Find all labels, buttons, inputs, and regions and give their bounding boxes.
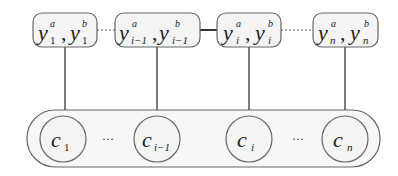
node-ci: c i — [226, 116, 272, 162]
svg-text:b: b — [175, 18, 180, 29]
svg-text:a: a — [331, 18, 336, 29]
svg-text:n: n — [330, 34, 336, 46]
svg-text:b: b — [364, 18, 369, 29]
node-cn: c n — [322, 116, 368, 162]
svg-text:y: y — [157, 20, 169, 45]
node-yn: y a n , y b n — [313, 13, 378, 47]
svg-text:i−1: i−1 — [172, 34, 188, 46]
svg-text:c: c — [333, 127, 343, 152]
svg-text:,: , — [61, 20, 67, 45]
svg-text:i: i — [268, 34, 271, 46]
svg-text:y: y — [68, 20, 80, 45]
node-c1: c 1 — [40, 116, 86, 162]
svg-text:i: i — [236, 34, 239, 46]
svg-text:,: , — [340, 20, 346, 45]
svg-text:n: n — [347, 141, 353, 153]
svg-text:a: a — [236, 18, 241, 29]
node-yim1: y a i−1 , y b i−1 — [115, 13, 200, 47]
svg-text:b: b — [268, 18, 273, 29]
node-y1: y a 1 , y b 1 — [33, 13, 97, 47]
svg-text:y: y — [221, 20, 233, 45]
svg-text:n: n — [363, 34, 369, 46]
svg-text:c: c — [51, 127, 61, 152]
svg-text:y: y — [253, 20, 265, 45]
svg-text:1: 1 — [82, 34, 88, 46]
svg-text:y: y — [348, 20, 360, 45]
ellipsis-left: ··· — [102, 132, 114, 146]
svg-text:,: , — [152, 20, 158, 45]
node-yi: y a i , y b i — [217, 13, 281, 47]
svg-text:y: y — [117, 20, 129, 45]
ellipsis-right: ··· — [292, 132, 304, 146]
factor-graph-diagram: y a 1 , y b 1 y a i−1 , y b i−1 y a i , … — [0, 0, 398, 176]
svg-text:i: i — [251, 141, 254, 153]
svg-text:i−1: i−1 — [131, 34, 147, 46]
svg-text:b: b — [82, 18, 87, 29]
svg-text:,: , — [245, 20, 251, 45]
svg-text:a: a — [50, 18, 55, 29]
svg-text:1: 1 — [50, 34, 56, 46]
svg-text:a: a — [132, 18, 137, 29]
svg-text:1: 1 — [64, 141, 70, 153]
svg-text:y: y — [316, 20, 328, 45]
svg-text:y: y — [36, 20, 48, 45]
node-cim1: c i−1 — [134, 116, 180, 162]
svg-text:c: c — [142, 127, 152, 152]
svg-text:i−1: i−1 — [154, 141, 170, 153]
svg-text:c: c — [237, 127, 247, 152]
